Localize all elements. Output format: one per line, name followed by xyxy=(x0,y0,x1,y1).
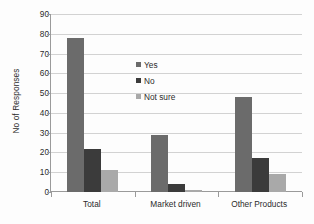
x-axis-label: Other Products xyxy=(231,199,287,209)
bar-group xyxy=(218,14,302,192)
bar[interactable] xyxy=(101,170,118,192)
y-tick-label: 40 xyxy=(9,108,49,118)
legend-label: Not sure xyxy=(144,92,175,102)
legend-swatch-icon xyxy=(136,78,141,83)
y-tick-label: 50 xyxy=(9,88,49,98)
bar[interactable] xyxy=(269,174,286,192)
y-tick-label: 70 xyxy=(9,49,49,59)
x-tick-mark xyxy=(302,192,303,197)
legend-item[interactable]: Yes xyxy=(136,57,175,72)
legend-swatch-icon xyxy=(136,62,141,67)
x-axis-label: Market driven xyxy=(150,199,200,209)
plot-area xyxy=(50,14,301,192)
bar[interactable] xyxy=(235,97,252,192)
y-tick-label: 30 xyxy=(9,128,49,138)
bar[interactable] xyxy=(84,149,101,193)
legend-label: No xyxy=(144,76,155,86)
legend-item[interactable]: No xyxy=(136,73,175,88)
bar[interactable] xyxy=(168,184,185,192)
bar[interactable] xyxy=(252,158,269,192)
y-tick-label: 60 xyxy=(9,68,49,78)
y-tick-label: 0 xyxy=(9,187,49,197)
y-tick-label: 20 xyxy=(9,147,49,157)
x-tick-mark xyxy=(135,192,136,197)
x-tick-mark xyxy=(218,192,219,197)
chart-legend: YesNoNot sure xyxy=(136,57,175,105)
bar[interactable] xyxy=(151,135,168,192)
bar[interactable] xyxy=(185,190,202,192)
x-tick-mark xyxy=(51,192,52,197)
y-tick-label: 90 xyxy=(9,9,49,19)
legend-label: Yes xyxy=(144,60,158,70)
bar[interactable] xyxy=(67,38,84,192)
y-tick-label: 10 xyxy=(9,167,49,177)
legend-item[interactable]: Not sure xyxy=(136,89,175,104)
y-tick-label: 80 xyxy=(9,29,49,39)
bar-chart: No of Responses 0102030405060708090 Tota… xyxy=(0,0,314,224)
x-axis-label: Total xyxy=(83,199,101,209)
legend-swatch-icon xyxy=(136,94,141,99)
bars-layer xyxy=(51,14,302,192)
bar-group xyxy=(51,14,135,192)
